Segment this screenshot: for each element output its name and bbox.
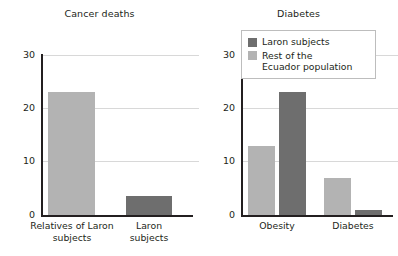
two-panel-bar-chart-figure: Cancer deaths 30 20 10 0 Relatives of La…	[0, 0, 398, 256]
legend-item-laron-subjects: Laron subjects	[248, 36, 368, 48]
legend-label-rest-of-ecuador-population: Rest of the Ecuador population	[262, 50, 352, 73]
plot-area-diabetes: 30 20 10 0 Obesity Diabetes Laron sub	[199, 0, 398, 256]
xtick-label-obesity: Obesity	[242, 220, 312, 232]
xtick-label-laron-subjects: Laron subjects	[118, 220, 180, 243]
bar-obesity-laron-subjects	[279, 92, 306, 215]
bar-relatives-of-laron-subjects	[48, 92, 95, 215]
bar-diabetes-rest-of-ecuador-population	[324, 178, 351, 215]
x-axis-line	[41, 215, 193, 217]
bar-laron-subjects	[126, 196, 172, 215]
legend-swatch-dark-icon	[248, 38, 257, 47]
chart-panel-diabetes: Diabetes 30 20 10 0 Obesity Diabe	[199, 0, 398, 256]
chart-panel-cancer-deaths: Cancer deaths 30 20 10 0 Relatives of La…	[0, 0, 199, 256]
legend-item-rest-of-ecuador-population: Rest of the Ecuador population	[248, 50, 368, 73]
bar-diabetes-laron-subjects	[355, 210, 382, 215]
plot-area-cancer-deaths: 30 20 10 0 Relatives of Laron subjects L…	[0, 0, 199, 256]
x-axis-line	[241, 215, 393, 217]
xtick-label-diabetes: Diabetes	[318, 220, 388, 232]
bar-obesity-rest-of-ecuador-population	[248, 146, 275, 215]
chart-legend: Laron subjects Rest of the Ecuador popul…	[241, 30, 376, 79]
legend-swatch-light-icon	[248, 51, 257, 60]
legend-label-laron-subjects: Laron subjects	[262, 36, 330, 48]
bars-layer-cancer-deaths	[0, 0, 199, 215]
xtick-label-relatives-of-laron-subjects: Relatives of Laron subjects	[28, 220, 116, 243]
